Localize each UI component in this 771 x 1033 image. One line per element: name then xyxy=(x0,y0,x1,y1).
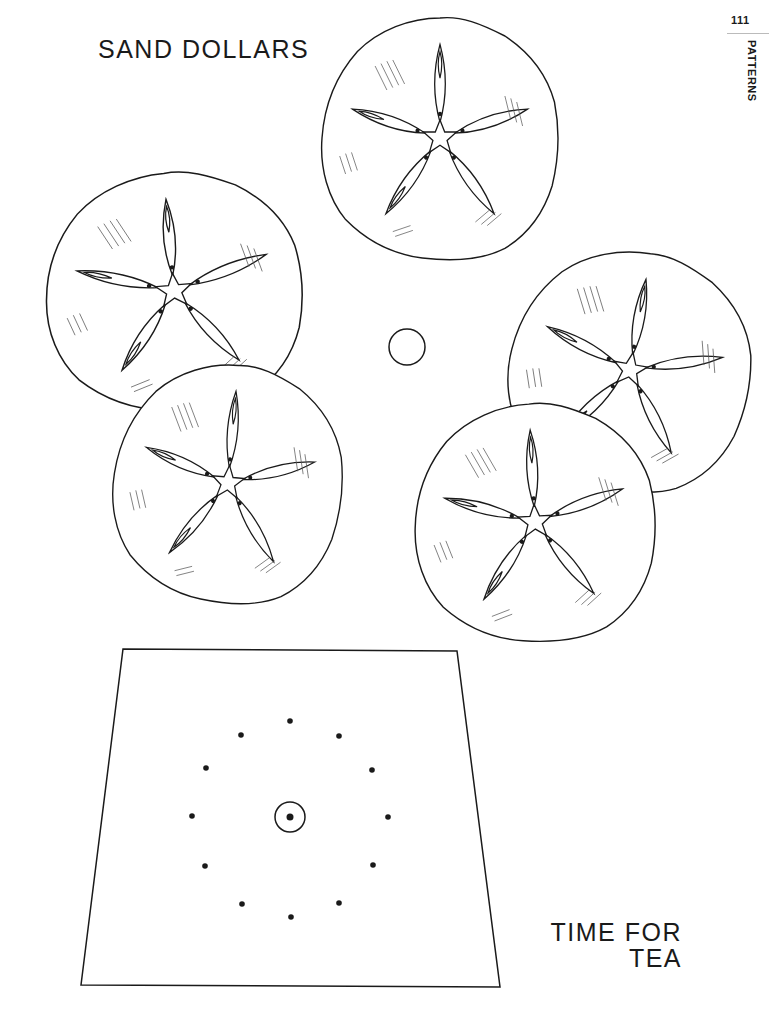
time-for-tea-title: TIME FOR TEA xyxy=(534,919,682,971)
time-for-tea-line2: TEA xyxy=(534,945,682,971)
sand-dollar-top xyxy=(322,18,558,260)
tea-center-dot xyxy=(287,814,294,821)
time-for-tea-line1: TIME FOR xyxy=(534,919,682,945)
pattern-artwork xyxy=(0,0,771,1033)
small-circle-pattern xyxy=(389,329,425,365)
